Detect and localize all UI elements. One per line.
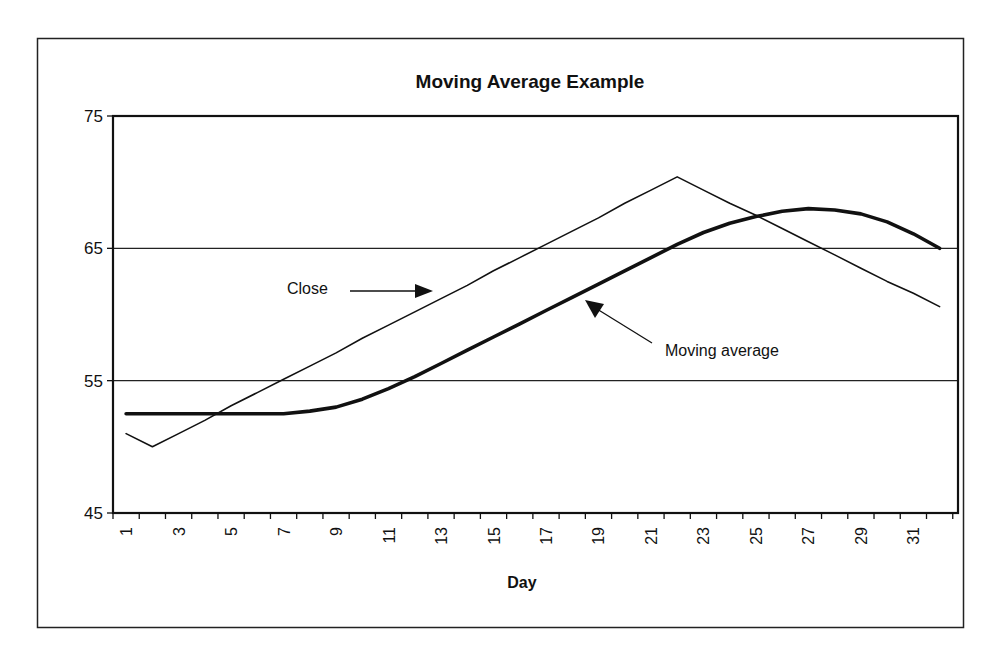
x-tick-label: 15 xyxy=(486,527,503,545)
annotation-close: Close xyxy=(287,280,433,298)
x-tick-label: 21 xyxy=(643,527,660,545)
annotation-close-label: Close xyxy=(287,280,328,297)
x-axis-label: Day xyxy=(507,574,536,591)
arrow-up-left-icon xyxy=(585,300,604,318)
annotation-moving-average-label: Moving average xyxy=(665,342,779,359)
x-tick-label: 13 xyxy=(433,527,450,545)
x-tick-label: 9 xyxy=(328,527,345,536)
x-tick-label: 27 xyxy=(800,527,817,545)
y-tick-label: 65 xyxy=(84,239,103,258)
x-tick-label: 11 xyxy=(381,527,398,544)
y-tick-label: 55 xyxy=(84,372,103,391)
y-tick-label: 45 xyxy=(84,504,103,523)
y-tick-label: 75 xyxy=(84,107,103,126)
x-tick-label: 3 xyxy=(171,527,188,536)
series-line-close xyxy=(126,177,940,447)
chart-canvas: Moving Average Example 45556575 13579111… xyxy=(0,0,1003,661)
chart: Moving Average Example 45556575 13579111… xyxy=(0,0,1003,661)
x-axis: 135791113151719212325272931 xyxy=(113,513,953,545)
series-layer xyxy=(126,177,940,447)
x-tick-label: 17 xyxy=(538,527,555,545)
x-tick-label: 31 xyxy=(905,527,922,545)
series-line-moving-average xyxy=(126,209,940,414)
x-tick-label: 5 xyxy=(223,527,240,536)
x-tick-label: 7 xyxy=(276,527,293,536)
chart-title: Moving Average Example xyxy=(416,71,645,92)
annotation-moving-average-arrow-shaft xyxy=(597,309,652,343)
x-tick-label: 29 xyxy=(853,527,870,545)
x-tick-label: 1 xyxy=(118,527,135,536)
x-tick-label: 23 xyxy=(695,527,712,545)
arrow-right-icon xyxy=(415,284,433,298)
y-axis: 45556575 xyxy=(84,107,113,523)
x-tick-label: 19 xyxy=(590,527,607,545)
x-tick-label: 25 xyxy=(748,527,765,545)
annotation-moving-average: Moving average xyxy=(585,300,779,359)
